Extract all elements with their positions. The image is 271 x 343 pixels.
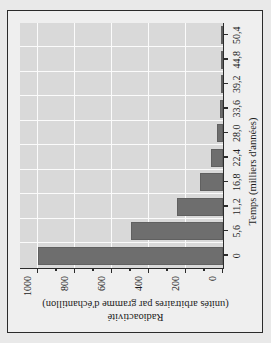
plot-area: 02004006008001000 05,611,216,822,428,033… bbox=[20, 23, 224, 269]
rotated-figure-wrapper: Radioactivité (unités arbitraires par gr… bbox=[0, 0, 271, 343]
bar[interactable] bbox=[221, 26, 223, 44]
bar-slot[interactable] bbox=[20, 146, 223, 171]
y-axis-title-line1: Radioactivité bbox=[107, 312, 163, 323]
x-axis-tick bbox=[223, 254, 228, 256]
bar-series bbox=[20, 23, 223, 268]
x-axis-tick bbox=[223, 34, 228, 36]
x-axis-tick bbox=[223, 107, 228, 109]
y-axis-tick bbox=[111, 268, 113, 273]
x-axis-tick-label: 0 bbox=[231, 253, 242, 258]
scanned-page-background: Radioactivité (unités arbitraires par gr… bbox=[0, 0, 271, 343]
y-axis-tick bbox=[37, 268, 39, 273]
y-axis-minor-tick bbox=[129, 268, 131, 272]
bar[interactable] bbox=[131, 222, 223, 240]
x-axis-tick-label: 50,4 bbox=[231, 27, 242, 45]
x-axis-tick-label: 11,2 bbox=[231, 198, 242, 215]
y-axis-tick bbox=[148, 268, 150, 273]
y-axis-minor-tick bbox=[203, 268, 205, 272]
bar[interactable] bbox=[220, 100, 223, 118]
x-axis-tick-label: 5,6 bbox=[231, 225, 242, 238]
bar-slot[interactable] bbox=[20, 219, 223, 244]
y-axis-minor-tick bbox=[166, 268, 168, 272]
bar-slot[interactable] bbox=[20, 72, 223, 97]
y-axis-tick bbox=[222, 268, 224, 273]
bar[interactable] bbox=[217, 124, 223, 142]
bar-slot[interactable] bbox=[20, 23, 223, 48]
y-axis-title: Radioactivité (unités arbitraires par gr… bbox=[8, 294, 262, 328]
y-axis-tick-label: 200 bbox=[170, 276, 181, 291]
x-axis-tick bbox=[223, 156, 228, 158]
x-axis-tick-label: 28,0 bbox=[231, 125, 242, 143]
y-axis-title-line2: (unités arbitraires par gramme d'échanti… bbox=[42, 298, 229, 311]
bar[interactable] bbox=[38, 247, 223, 265]
bar-slot[interactable] bbox=[20, 195, 223, 220]
chart-figure: Radioactivité (unités arbitraires par gr… bbox=[7, 10, 263, 333]
y-axis-minor-tick bbox=[55, 268, 57, 272]
y-axis-minor-tick bbox=[92, 268, 94, 272]
x-axis-tick bbox=[223, 230, 228, 232]
x-axis-tick-label: 22,4 bbox=[231, 149, 242, 167]
x-axis-tick bbox=[223, 83, 228, 85]
x-axis-tick bbox=[223, 181, 228, 183]
y-axis-tick-label: 1000 bbox=[22, 276, 33, 296]
bar[interactable] bbox=[200, 173, 223, 191]
y-axis-tick bbox=[74, 268, 76, 273]
y-axis-tick-label: 400 bbox=[133, 276, 144, 291]
y-axis-tick bbox=[185, 268, 187, 273]
bar-slot[interactable] bbox=[20, 121, 223, 146]
bar[interactable] bbox=[177, 198, 223, 216]
bar-slot[interactable] bbox=[20, 97, 223, 122]
x-axis-tick bbox=[223, 132, 228, 134]
x-axis-tick bbox=[223, 58, 228, 60]
x-axis-tick-label: 33,6 bbox=[231, 100, 242, 118]
bar-slot[interactable] bbox=[20, 244, 223, 269]
x-axis-tick-label: 44,8 bbox=[231, 51, 242, 69]
y-axis-tick-label: 800 bbox=[59, 276, 70, 291]
x-axis-title: Temps (milliers d'années) bbox=[247, 11, 258, 332]
bar[interactable] bbox=[211, 149, 223, 167]
y-axis-tick-label: 600 bbox=[96, 276, 107, 291]
x-axis-tick-label: 39,2 bbox=[231, 76, 242, 94]
bar[interactable] bbox=[221, 75, 223, 93]
x-axis-tick bbox=[223, 205, 228, 207]
x-axis-tick-label: 16,8 bbox=[231, 174, 242, 192]
bar-slot[interactable] bbox=[20, 170, 223, 195]
bar-slot[interactable] bbox=[20, 48, 223, 73]
y-axis-tick-label: 0 bbox=[207, 276, 218, 281]
bar[interactable] bbox=[221, 51, 223, 69]
